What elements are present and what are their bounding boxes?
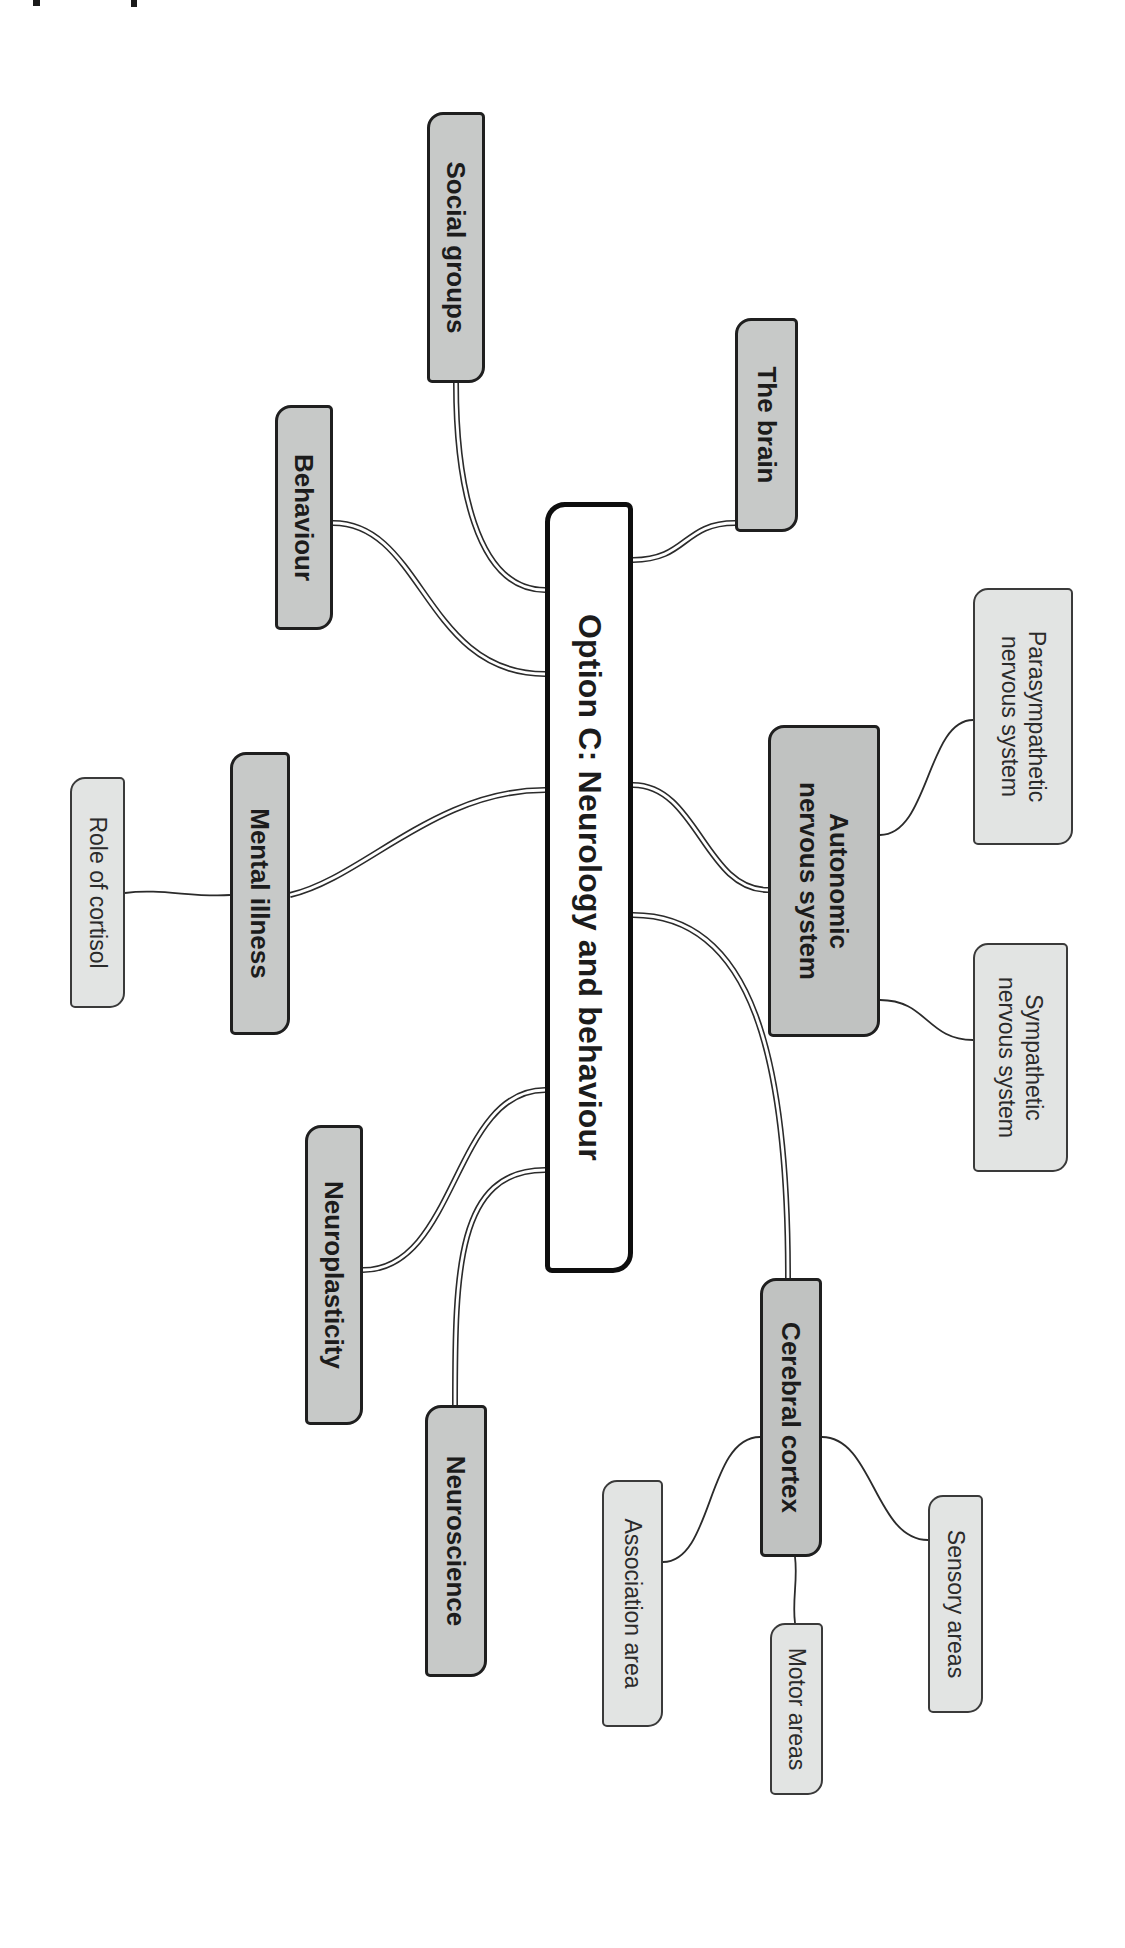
connector-central-to-cerebral-cortex	[633, 915, 788, 1278]
connector-autonomic-nervous-system-to-parasympathetic-nervous-system	[880, 720, 973, 835]
connector-central-to-neuroplasticity	[363, 1090, 545, 1270]
connector-cerebral-cortex-to-sensory-areas	[822, 1437, 928, 1540]
scanned-mindmap-page: Option C: Neurology and behaviour Social…	[0, 0, 1125, 1948]
connector-central-to-neuroscience	[455, 1170, 545, 1405]
connector-cerebral-cortex-to-association-area	[663, 1437, 760, 1562]
node-neuroplasticity[interactable]: Neuroplasticity	[305, 1125, 363, 1425]
node-behaviour[interactable]: Behaviour	[275, 405, 333, 630]
connector-central-to-behaviour	[333, 523, 545, 674]
node-mental-illness[interactable]: Mental illness	[230, 752, 290, 1035]
node-social-groups[interactable]: Social groups	[427, 112, 485, 383]
node-autonomic-nervous-system[interactable]: Autonomic nervous system	[768, 725, 880, 1037]
node-association-area[interactable]: Association area	[602, 1480, 663, 1727]
connector-autonomic-nervous-system-to-sympathetic-nervous-system	[880, 1000, 973, 1040]
connector-central-to-social-groups	[456, 383, 545, 590]
node-parasympathetic-nervous-system[interactable]: Parasympathetic nervous system	[973, 588, 1073, 845]
node-role-of-cortisol[interactable]: Role of cortisol	[70, 777, 125, 1008]
connector-central-to-neuroscience	[455, 1170, 545, 1405]
node-sympathetic-nervous-system[interactable]: Sympathetic nervous system	[973, 943, 1068, 1172]
connector-central-to-autonomic-nervous-system	[633, 785, 768, 890]
node-sensory-areas[interactable]: Sensory areas	[928, 1495, 983, 1713]
node-cerebral-cortex[interactable]: Cerebral cortex	[760, 1278, 822, 1557]
connector-central-to-social-groups	[456, 383, 545, 590]
connector-central-to-cerebral-cortex	[633, 915, 788, 1278]
mindmap-canvas: Option C: Neurology and behaviour Social…	[0, 0, 1125, 1948]
connector-central-to-behaviour	[333, 523, 545, 674]
connector-central-to-the-brain	[633, 523, 735, 560]
connector-cerebral-cortex-to-motor-areas	[794, 1557, 796, 1623]
node-the-brain[interactable]: The brain	[735, 318, 798, 532]
node-neuroscience[interactable]: Neuroscience	[425, 1405, 487, 1677]
node-motor-areas[interactable]: Motor areas	[770, 1623, 823, 1795]
connector-mental-illness-to-role-of-cortisol	[125, 892, 230, 896]
node-central-topic[interactable]: Option C: Neurology and behaviour	[545, 502, 633, 1273]
connector-central-to-mental-illness	[290, 790, 545, 895]
